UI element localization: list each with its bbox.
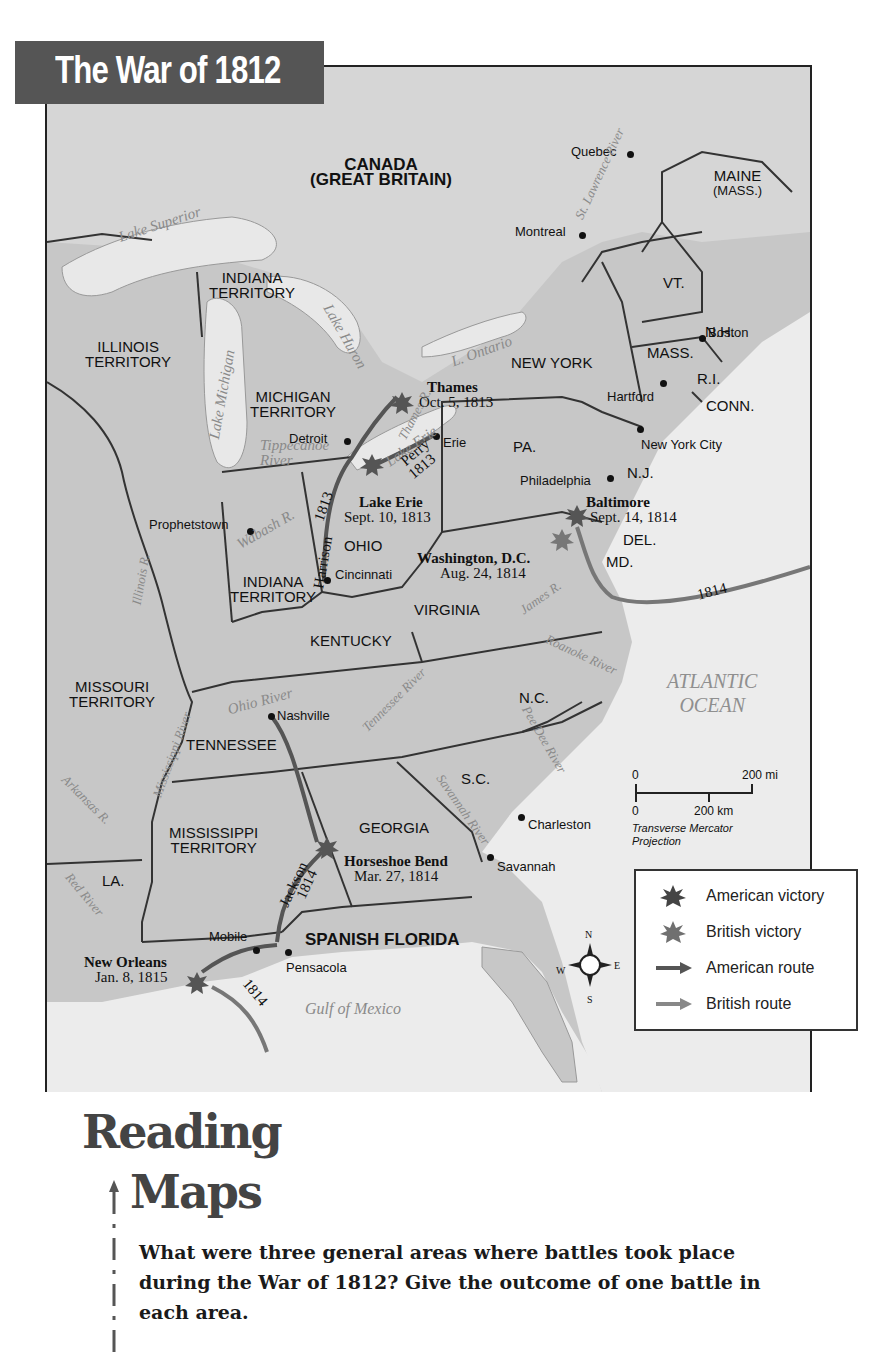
battle-date-thames: Oct. 5, 1813 xyxy=(419,395,493,410)
city-label-erie: Erie xyxy=(443,435,466,450)
city-label-boston: Boston xyxy=(708,325,748,340)
reading-maps-heading-line1: Reading xyxy=(82,1108,281,1156)
compass-rose: N S W E xyxy=(560,925,620,1005)
battle-date-washington: Aug. 24, 1814 xyxy=(440,566,526,581)
city-label-philadelphia: Philadelphia xyxy=(520,473,591,488)
battle-label-new-orleans: New Orleans xyxy=(84,955,167,970)
dashed-up-arrow-icon xyxy=(107,1180,121,1353)
city-label-savannah: Savannah xyxy=(497,859,556,874)
city-label-nashville: Nashville xyxy=(277,708,330,723)
region-label-virginia: VIRGINIA xyxy=(414,602,480,617)
compass-s: S xyxy=(587,992,593,1007)
city-label-charleston: Charleston xyxy=(528,817,591,832)
british-route-arrow-icon xyxy=(654,992,694,1016)
map-legend: American victory British victory America… xyxy=(634,869,858,1031)
city-dot-nashville xyxy=(268,713,275,720)
water-label-tippecanoe: TippecanoeRiver xyxy=(260,438,329,468)
reading-maps-question: What were three general areas where batt… xyxy=(139,1237,779,1327)
british-victory-star-icon xyxy=(658,920,688,944)
battle-date-new-orleans: Jan. 8, 1815 xyxy=(95,970,168,985)
region-label-georgia: GEORGIA xyxy=(359,820,429,835)
country-label-canada: CANADA (GREAT BRITAIN) xyxy=(310,157,452,187)
city-label-hartford: Hartford xyxy=(607,389,654,404)
reading-maps-heading-line2: Maps xyxy=(130,1168,261,1216)
battle-label-lake-erie: Lake Erie xyxy=(359,495,423,510)
city-dot-philadelphia xyxy=(607,475,614,482)
legend-item-american-route: American route xyxy=(636,953,856,983)
battle-date-horseshoe-bend: Mar. 27, 1814 xyxy=(354,869,438,884)
region-label-la: LA. xyxy=(102,873,125,888)
city-label-pensacola: Pensacola xyxy=(286,960,347,975)
city-dot-charleston xyxy=(518,814,525,821)
region-label-maine: MAINE(MASS.) xyxy=(713,168,762,198)
battle-date-lake-erie: Sept. 10, 1813 xyxy=(344,510,431,525)
compass-w: W xyxy=(556,963,565,978)
region-label-sc: S.C. xyxy=(461,771,490,786)
region-label-new-york: NEW YORK xyxy=(511,355,592,370)
region-label-nc: N.C. xyxy=(519,690,549,705)
scale-km-zero: 0 xyxy=(632,804,639,819)
compass-n: N xyxy=(585,927,592,942)
compass-e: E xyxy=(614,958,620,973)
american-route-arrow-icon xyxy=(654,956,694,980)
region-label-michigan-territory: MICHIGANTERRITORY xyxy=(250,389,336,419)
region-label-indiana-territory-north: INDIANATERRITORY xyxy=(209,270,295,300)
scale-mi-label: 200 mi xyxy=(742,768,778,783)
scale-mi-zero: 0 xyxy=(632,768,639,783)
map-scale-bar: 0 200 mi 0 200 km Transverse Mercator Pr… xyxy=(632,768,792,858)
region-label-del: DEL. xyxy=(623,532,656,547)
american-victory-star-icon xyxy=(658,884,688,908)
region-label-pa: PA. xyxy=(513,439,536,454)
region-label-mississippi-territory: MISSISSIPPITERRITORY xyxy=(169,825,258,855)
region-label-illinois-territory: ILLINOISTERRITORY xyxy=(85,339,171,369)
region-label-spanish-florida: SPANISH FLORIDA xyxy=(305,932,460,947)
battle-date-baltimore: Sept. 14, 1814 xyxy=(590,510,677,525)
city-dot-montreal xyxy=(579,232,586,239)
legend-item-british-route: British route xyxy=(636,989,856,1019)
legend-item-british-victory: British victory xyxy=(636,917,856,947)
city-label-montreal: Montreal xyxy=(515,224,566,239)
city-label-mobile: Mobile xyxy=(209,929,247,944)
region-label-kentucky: KENTUCKY xyxy=(310,633,392,648)
region-label-mass: MASS. xyxy=(647,345,694,360)
water-label-gulf-of-mexico: Gulf of Mexico xyxy=(305,1001,401,1016)
region-label-nj: N.J. xyxy=(627,465,654,480)
region-label-vt: VT. xyxy=(663,275,685,290)
city-dot-hartford xyxy=(660,380,667,387)
region-label-ri: R.I. xyxy=(697,371,720,386)
city-label-new-york-city: New York City xyxy=(641,437,722,452)
region-label-missouri-territory: MISSOURITERRITORY xyxy=(69,679,155,709)
scale-km-label: 200 km xyxy=(694,804,733,819)
city-dot-mobile xyxy=(253,947,260,954)
city-dot-detroit xyxy=(344,438,351,445)
battle-label-horseshoe-bend: Horseshoe Bend xyxy=(344,854,448,869)
legend-item-american-victory: American victory xyxy=(636,881,856,911)
city-dot-pensacola xyxy=(285,949,292,956)
city-dot-new-york-city xyxy=(637,426,644,433)
city-dot-savannah xyxy=(487,854,494,861)
water-label-atlantic-ocean: ATLANTICOCEAN xyxy=(667,669,757,717)
region-label-md: MD. xyxy=(606,554,634,569)
city-dot-boston xyxy=(699,335,706,342)
battle-label-baltimore: Baltimore xyxy=(586,495,650,510)
map-title-banner: The War of 1812 xyxy=(15,41,324,104)
projection-label: Transverse Mercator Projection xyxy=(632,822,733,848)
battle-label-thames: Thames xyxy=(427,380,478,395)
region-label-ohio: OHIO xyxy=(344,538,382,553)
region-label-indiana-territory: INDIANATERRITORY xyxy=(230,574,316,604)
city-label-cincinnati: Cincinnati xyxy=(335,567,392,582)
city-label-prophetstown: Prophetstown xyxy=(149,517,229,532)
battle-label-washington: Washington, D.C. xyxy=(417,551,530,566)
region-label-conn: CONN. xyxy=(706,398,754,413)
region-label-tennessee: TENNESSEE xyxy=(186,737,277,752)
map-title: The War of 1812 xyxy=(55,49,281,92)
city-dot-quebec xyxy=(627,151,634,158)
